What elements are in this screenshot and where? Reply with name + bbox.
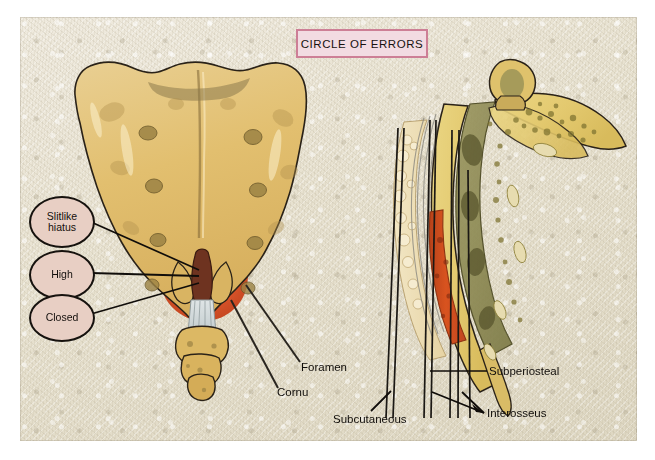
label-subperiosteal: Subperiosteal	[489, 365, 559, 377]
needle-foramen	[246, 285, 300, 362]
coccyx-segment-3	[188, 374, 216, 400]
label-subcutaneous: Subcutaneous	[333, 413, 407, 425]
title-plaque: CIRCLE OF ERRORS	[296, 29, 428, 58]
illustration-stage: CIRCLE OF ERRORS Slitlike hiatus High Cl…	[0, 0, 655, 460]
needle-track-3	[424, 120, 430, 418]
callout-slitlike-line1: Slitlike	[47, 210, 77, 222]
spinous-base	[496, 96, 526, 110]
left-needle-lines	[231, 285, 300, 388]
leader-interosseus-b	[462, 392, 484, 413]
needle-track-1	[386, 128, 398, 418]
needle-cornu	[231, 300, 278, 388]
anatomy-artwork	[0, 0, 655, 460]
callout-high-text: High	[51, 269, 73, 280]
title-text: CIRCLE OF ERRORS	[301, 38, 424, 50]
label-cornu: Cornu	[277, 386, 308, 398]
callout-slitlike-line2: hiatus	[48, 221, 76, 233]
needle-track-6	[458, 130, 459, 418]
spinous-marrow	[500, 69, 524, 99]
callout-closed[interactable]: Closed	[29, 294, 95, 342]
callout-high[interactable]: High	[29, 250, 95, 300]
label-interosseus: Interosseus	[487, 407, 546, 419]
callout-closed-text: Closed	[46, 312, 79, 323]
left-sacrum-figure	[75, 62, 307, 400]
leader-subcutaneous	[371, 391, 391, 411]
callout-slitlike-hiatus[interactable]: Slitlike hiatus	[29, 196, 95, 248]
callout-slitlike-text: Slitlike hiatus	[47, 211, 77, 234]
label-foramen: Foramen	[301, 361, 347, 373]
